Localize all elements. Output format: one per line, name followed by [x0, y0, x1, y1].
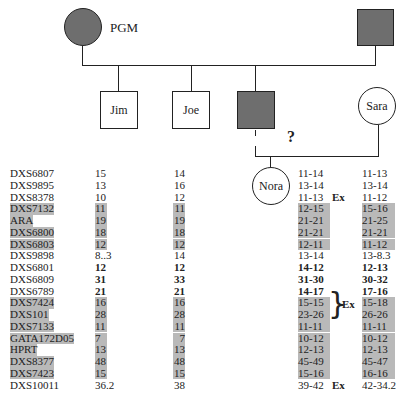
joe-label: Joe — [183, 104, 199, 116]
marker-name-cell: DXS10011 — [10, 380, 59, 392]
pgm-symbol — [64, 8, 102, 46]
table-row: DXS7423151515-1616-16 — [0, 368, 406, 380]
sara-label: Sara — [366, 100, 387, 112]
jim-genotype-cell: 11 — [95, 321, 107, 333]
sara-genotype-cell: 21-21 — [362, 227, 395, 239]
nora-exclusion-label: Ex — [332, 380, 345, 392]
sara-genotype-cell: 21-25 — [362, 215, 395, 227]
jim-genotype-cell: 19 — [95, 215, 107, 227]
jim-genotype-cell: 13 — [95, 180, 107, 192]
jim-genotype-cell: 15 — [95, 368, 107, 380]
sara-symbol: Sara — [358, 87, 396, 125]
jim-drop-line — [118, 66, 119, 91]
table-row: GATA172D057710-1210-12 — [0, 333, 406, 345]
marker-name-cell: DXS9895 — [10, 180, 54, 192]
marker-name-cell: DXS7133 — [10, 321, 54, 333]
sara-descent-line — [378, 125, 379, 157]
nora-genotype-cell: 14-12 — [298, 262, 330, 274]
sara-genotype-cell: 26-26 — [362, 309, 395, 321]
joe-genotype-cell: 18 — [173, 227, 185, 239]
father-uncertain-line — [255, 130, 256, 136]
table-row: DXS6801121214-1212-13 — [0, 262, 406, 274]
table-row: DXS6809313331-3030-32 — [0, 274, 406, 286]
father-symbol — [237, 91, 275, 129]
jim-genotype-cell: 15 — [95, 168, 107, 180]
nora-genotype-cell: 23-26 — [298, 309, 330, 321]
table-row: ARA191921-2121-25 — [0, 215, 406, 227]
table-row: DXS98988..31413-1413-8.3 — [0, 250, 406, 262]
table-row: DXS8377484845-4945-47 — [0, 356, 406, 368]
nora-drop-line — [270, 157, 271, 167]
table-row: DXS7133111111-1111-11 — [0, 321, 406, 333]
joe-genotype-cell: 48 — [173, 356, 185, 368]
nora-genotype-cell: 15-16 — [298, 368, 330, 380]
sara-genotype-cell: 13-14 — [362, 180, 395, 192]
paternity-question-mark: ? — [287, 128, 295, 146]
nora-genotype-cell: 11-11 — [298, 321, 330, 333]
table-row: HPRT131312-1312-13 — [0, 344, 406, 356]
pgf-symbol — [357, 9, 394, 46]
table-row: DXS9895131613-1413-14 — [0, 180, 406, 192]
joe-genotype-cell: 15 — [173, 368, 185, 380]
marker-name-cell: ARA — [10, 215, 33, 227]
marker-name-cell: DXS6807 — [10, 168, 54, 180]
exclusion-brace-label: Ex — [342, 298, 355, 310]
table-row: DXS7132111112-1515-16 — [0, 203, 406, 215]
father-drop-line — [255, 66, 256, 91]
jim-genotype-cell: 48 — [95, 356, 107, 368]
marker-name-cell: DXS6809 — [10, 274, 54, 286]
pgf-descent-line — [375, 46, 376, 66]
joe-genotype-cell: 11 — [173, 321, 185, 333]
jim-genotype-cell: 28 — [95, 309, 107, 321]
jim-symbol: Jim — [100, 91, 138, 129]
jim-genotype-cell: 12 — [95, 262, 107, 274]
sibship-line — [82, 65, 376, 66]
table-row: DXS6807151411-1411-13 — [0, 168, 406, 180]
sara-genotype-cell: 12-13 — [362, 262, 395, 274]
marker-name-cell: DXS6801 — [10, 262, 54, 274]
sara-genotype-cell: 11-11 — [362, 321, 395, 333]
pgm-label: PGM — [110, 20, 138, 36]
nora-genotype-cell: 13-14 — [298, 180, 330, 192]
marker-name-cell: DXS101 — [10, 309, 49, 321]
joe-symbol: Joe — [172, 91, 210, 129]
joe-genotype-cell: 16 — [173, 180, 185, 192]
nora-genotype-cell: 45-49 — [298, 356, 330, 368]
joe-genotype-cell: 12 — [173, 262, 185, 274]
couple-line — [255, 156, 379, 157]
sara-genotype-cell: 42-34.2 — [362, 380, 395, 392]
table-row: DXS6803121212-1111-12 — [0, 239, 406, 251]
table-row: DXS8378101211-1311-12Ex — [0, 192, 406, 204]
sara-genotype-cell: 45-47 — [362, 356, 395, 368]
sara-genotype-cell: 16-16 — [362, 368, 395, 380]
marker-name-cell: DXS8377 — [10, 356, 54, 368]
marker-name-cell: DXS7423 — [10, 368, 54, 380]
jim-label: Jim — [110, 104, 127, 116]
nora-exclusion-label: Ex — [332, 192, 345, 204]
pgm-descent-line — [82, 46, 83, 66]
jim-genotype-cell: 31 — [95, 274, 107, 286]
joe-genotype-cell: 38 — [173, 380, 185, 392]
jim-genotype-cell: 18 — [95, 227, 107, 239]
nora-genotype-cell: 39-42 — [298, 380, 330, 392]
joe-genotype-cell: 14 — [173, 168, 185, 180]
joe-drop-line — [191, 66, 192, 91]
nora-genotype-cell: 21-21 — [298, 215, 330, 227]
joe-genotype-cell: 19 — [173, 215, 185, 227]
joe-genotype-cell: 33 — [173, 274, 185, 286]
nora-genotype-cell: 31-30 — [298, 274, 330, 286]
nora-genotype-cell: 11-14 — [298, 168, 330, 180]
jim-genotype-cell: 36.2 — [95, 380, 107, 392]
marker-name-cell: DXS6800 — [10, 227, 54, 239]
table-row: DXS1001136.23839-4242-34.2Ex — [0, 380, 406, 392]
sara-genotype-cell: 30-32 — [362, 274, 395, 286]
joe-genotype-cell: 28 — [173, 309, 185, 321]
nora-genotype-cell: 21-21 — [298, 227, 330, 239]
table-row: DXS6800181821-2121-21 — [0, 227, 406, 239]
sara-genotype-cell: 11-13 — [362, 168, 395, 180]
